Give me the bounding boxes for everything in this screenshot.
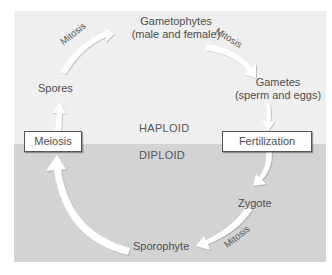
gametes-subtitle: (sperm and eggs) bbox=[228, 89, 328, 102]
diploid-label: DIPLOID bbox=[139, 149, 185, 161]
gametes-label: Gametes (sperm and eggs) bbox=[228, 76, 328, 102]
arrow-gametes-to-fertilization bbox=[262, 104, 275, 131]
haploid-label: HAPLOID bbox=[139, 122, 189, 134]
spores-label: Spores bbox=[38, 82, 73, 95]
sporophyte-label: Sporophyte bbox=[133, 240, 189, 253]
gametophytes-label: Gametophytes (male and female) bbox=[121, 15, 231, 41]
meiosis-box: Meiosis bbox=[24, 131, 82, 152]
arrow-meiosis-to-spores bbox=[52, 102, 66, 131]
arrow-fertilization-to-zygote bbox=[253, 152, 272, 186]
gametes-title: Gametes bbox=[228, 76, 328, 89]
arrow-gametophytes-to-gametes bbox=[206, 44, 256, 78]
gametophytes-title: Gametophytes bbox=[121, 15, 231, 28]
arrow-sporophyte-to-meiosis bbox=[46, 155, 130, 255]
zygote-label: Zygote bbox=[238, 197, 272, 210]
fertilization-box: Fertilization bbox=[222, 131, 312, 152]
